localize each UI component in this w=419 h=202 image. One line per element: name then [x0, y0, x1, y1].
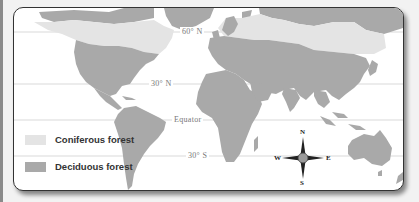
map-frame: 60° N 30° N Equator 30° S Coniferous for… [13, 7, 404, 191]
legend-coniferous: Coniferous forest [25, 134, 134, 145]
compass-rose: N S W E [278, 133, 328, 183]
latitude-label-equator: Equator [172, 115, 203, 124]
legend-deciduous: Deciduous forest [25, 161, 133, 172]
compass-rose-icon [278, 133, 328, 183]
compass-north: N [300, 128, 305, 136]
south-america [114, 106, 166, 190]
latitude-label-30n: 30° N [149, 79, 173, 88]
compass-south: S [300, 179, 304, 187]
latitude-label-30s: 30° S [186, 151, 209, 160]
compass-east: E [326, 154, 331, 162]
deciduous-swatch [25, 162, 46, 172]
page-edge [0, 0, 3, 202]
legend-label-coniferous: Coniferous forest [55, 134, 134, 145]
legend-label-deciduous: Deciduous forest [55, 161, 133, 172]
compass-west: W [274, 154, 281, 162]
latitude-label-60n: 60° N [180, 27, 204, 36]
coniferous-swatch [25, 135, 46, 145]
australia [348, 130, 392, 166]
